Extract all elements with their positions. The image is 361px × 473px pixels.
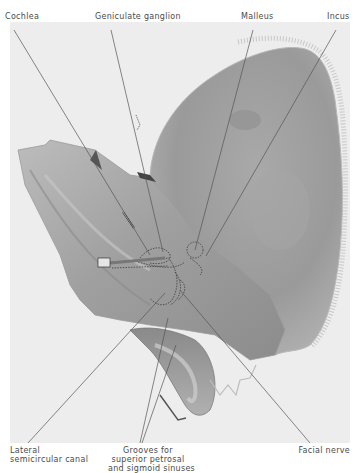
label-cochlea: Cochlea — [5, 12, 39, 21]
temporal-bone-illustration — [0, 0, 361, 473]
label-facial-nerve: Facial nerve — [290, 446, 350, 455]
label-grooves-sinuses: Grooves for superior petrosal and sigmoi… — [108, 446, 188, 473]
label-incus: Incus — [327, 12, 350, 21]
label-geniculate-ganglion: Geniculate ganglion — [95, 12, 181, 21]
mastoid-groove — [130, 328, 215, 415]
label-malleus: Malleus — [241, 12, 274, 21]
label-lateral-semicircular-canal: Lateral semicircular canal — [10, 446, 88, 464]
